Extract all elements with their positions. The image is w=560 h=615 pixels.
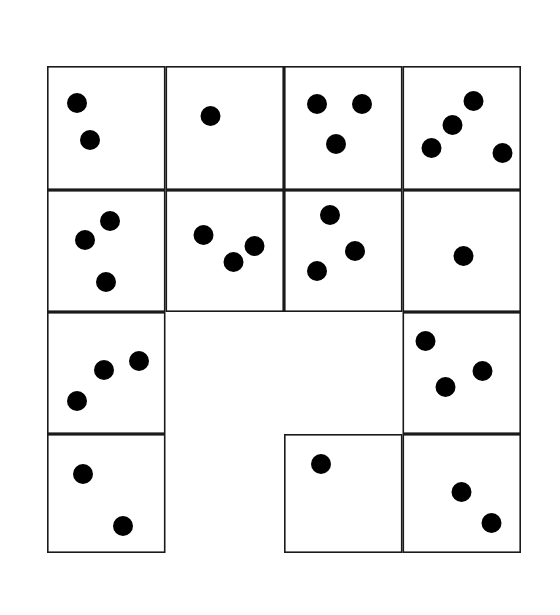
dot-marker (67, 93, 87, 113)
dot-marker (194, 225, 214, 245)
dot-grid-figure (0, 0, 560, 615)
grid-cell (403, 435, 520, 552)
grid-cell (285, 67, 402, 189)
dot-marker (96, 272, 116, 292)
cell-border (285, 191, 402, 311)
grid-cell (48, 67, 165, 189)
dot-marker (436, 377, 456, 397)
dot-marker (326, 134, 346, 154)
dot-grid-canvas (0, 0, 560, 615)
dot-marker (452, 482, 472, 502)
grid-cell (166, 67, 283, 189)
grid-cell (285, 435, 402, 552)
dot-marker (201, 106, 221, 126)
dot-marker (100, 211, 120, 231)
cell-border (285, 435, 402, 552)
dot-marker (113, 516, 133, 536)
cell-border (48, 191, 165, 311)
dot-marker (224, 252, 244, 272)
dot-marker (454, 246, 474, 266)
grid-cell (48, 313, 165, 433)
cell-border (166, 67, 283, 189)
dot-marker (473, 361, 493, 381)
dot-marker (443, 115, 463, 135)
dot-marker (129, 351, 149, 371)
cell-border (285, 67, 402, 189)
dot-marker (307, 261, 327, 281)
dot-marker (80, 130, 100, 150)
dot-marker (73, 464, 93, 484)
grid-cell (285, 191, 402, 311)
dot-marker (352, 94, 372, 114)
dot-marker (464, 91, 484, 111)
cell-border (403, 313, 520, 433)
dot-marker (75, 230, 95, 250)
grid-cell (48, 435, 165, 552)
dot-marker (416, 331, 436, 351)
grid-cell (166, 191, 283, 311)
dot-marker (245, 236, 265, 256)
cell-border (166, 191, 283, 311)
grid-cell (403, 191, 520, 311)
dot-marker (482, 513, 502, 533)
dot-marker (493, 143, 513, 163)
cell-border (48, 67, 165, 189)
dot-marker (67, 391, 87, 411)
cells-layer (48, 67, 520, 552)
dot-marker (311, 454, 331, 474)
dot-marker (422, 138, 442, 158)
dot-marker (320, 205, 340, 225)
cell-border (48, 435, 165, 552)
grid-cell (403, 313, 520, 433)
dot-marker (307, 94, 327, 114)
grid-cell (48, 191, 165, 311)
grid-cell (403, 67, 520, 189)
dot-marker (94, 360, 114, 380)
dot-marker (345, 241, 365, 261)
